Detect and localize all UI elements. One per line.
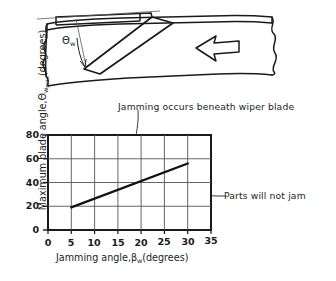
x-axis-label-prefix: Jamming angle, xyxy=(56,252,131,263)
angle-arc xyxy=(77,38,86,67)
flow-direction-arrow xyxy=(196,36,239,61)
y-axis-label: Maximum blade angle,Θwmax(degrees) xyxy=(37,30,50,210)
x-tick-label-30: 30 xyxy=(180,236,196,247)
theta-subscript-axis: w xyxy=(42,88,50,93)
y-tick-label-0: 0 xyxy=(19,224,39,235)
x-tick-label-25: 25 xyxy=(156,236,172,247)
x-axis-label-suffix: (degrees) xyxy=(142,252,188,263)
y-axis-label-suffix: (degrees) xyxy=(37,30,48,76)
x-tick-label-5: 5 xyxy=(63,237,79,248)
chart-plot-area xyxy=(0,128,336,248)
x-tick-label-20: 20 xyxy=(133,237,149,248)
y-axis-label-wrapper: Maximum blade angle,Θwmax(degrees) xyxy=(31,25,47,215)
angle-label-theta-w: Θw xyxy=(62,35,75,48)
theta-subsubscript-axis: max xyxy=(44,76,50,88)
x-tick-label-35: 35 xyxy=(203,235,219,246)
x-tick-label-0: 0 xyxy=(40,237,56,248)
x-tick-label-15: 15 xyxy=(110,237,126,248)
technical-figure: Θw Jamming occurs beneath wiper blade Pa… xyxy=(0,0,336,281)
theta-symbol: Θ xyxy=(62,35,70,46)
x-axis-label: Jamming angle,βw(degrees) xyxy=(56,252,188,265)
y-axis-label-prefix: Maximum blade angle, xyxy=(37,100,48,210)
theta-symbol-axis: Θ xyxy=(37,93,48,101)
wiper-blade-schematic xyxy=(0,0,336,100)
x-tick-label-10: 10 xyxy=(86,237,102,248)
theta-subscript: w xyxy=(70,40,75,48)
